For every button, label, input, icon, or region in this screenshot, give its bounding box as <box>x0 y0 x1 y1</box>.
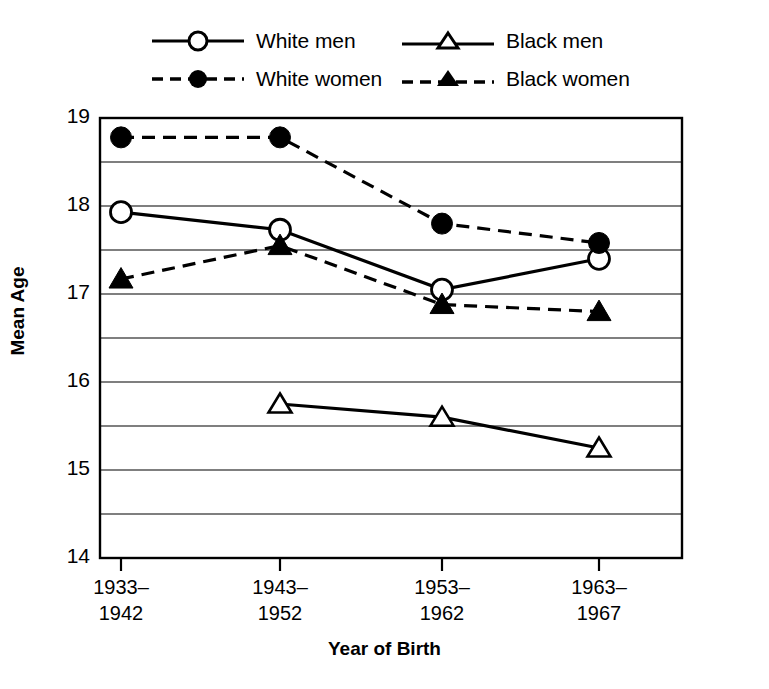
plot-area <box>0 0 769 600</box>
y-tick-label-15: 15 <box>34 456 90 480</box>
gridlines-group <box>100 162 682 514</box>
x-tick-label-2: 1953–1962 <box>382 574 502 626</box>
y-axis-title: Mean Age <box>7 231 29 391</box>
series-line <box>121 137 599 243</box>
x-tick-label-1: 1943–1952 <box>220 574 340 626</box>
series-black-women <box>109 234 611 321</box>
x-tick-label-line: 1953– <box>382 574 502 600</box>
data-point-open-circle-0 <box>111 202 132 223</box>
data-point-filled-circle-0 <box>111 127 132 148</box>
x-tick-label-line: 1933– <box>61 574 181 600</box>
series-white-women <box>111 127 610 254</box>
x-tick-label-line: 1952 <box>220 600 340 626</box>
x-tick-label-line: 1967 <box>539 600 659 626</box>
y-tick-label-18: 18 <box>34 192 90 216</box>
x-tick-label-line: 1962 <box>382 600 502 626</box>
x-axis-title: Year of Birth <box>0 638 769 660</box>
y-tick-label-17: 17 <box>34 280 90 304</box>
series-line <box>121 212 599 289</box>
x-tick-label-3: 1963–1967 <box>539 574 659 626</box>
y-tick-label-16: 16 <box>34 368 90 392</box>
x-tick-label-line: 1963– <box>539 574 659 600</box>
x-tick-label-line: 1943– <box>220 574 340 600</box>
chart-figure: White men Black men <box>0 0 769 689</box>
series-layer <box>109 127 611 457</box>
series-line <box>121 246 599 312</box>
series-white-men <box>111 202 610 300</box>
data-point-filled-circle-3 <box>589 232 610 253</box>
x-tick-label-line: 1942 <box>61 600 181 626</box>
x-tick-label-0: 1933–1942 <box>61 574 181 626</box>
data-point-open-triangle-0 <box>269 394 292 413</box>
x-tick-marks <box>121 558 599 571</box>
y-tick-label-19: 19 <box>34 104 90 128</box>
data-point-filled-circle-2 <box>432 213 453 234</box>
y-tick-label-14: 14 <box>34 544 90 568</box>
series-black-men <box>269 394 611 457</box>
data-point-filled-circle-1 <box>270 127 291 148</box>
